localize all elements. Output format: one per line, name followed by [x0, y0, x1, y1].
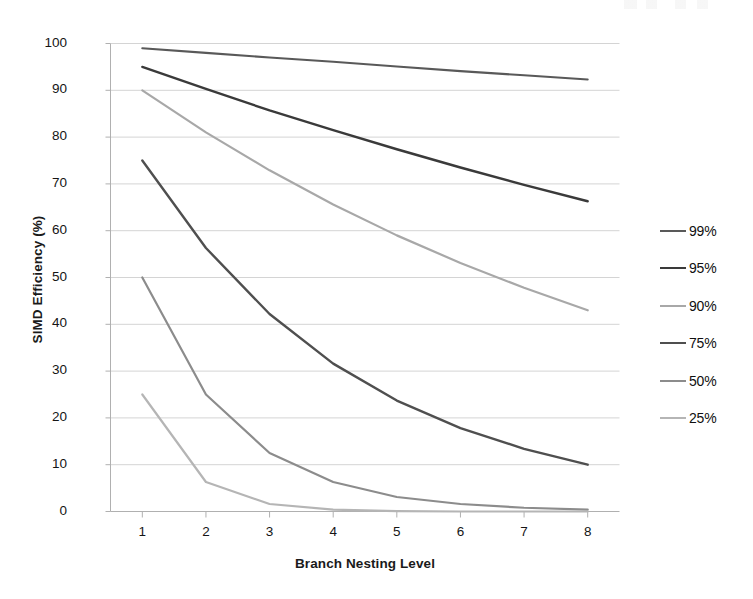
plot-area [0, 0, 753, 599]
gridlines [111, 44, 620, 465]
legend-label: 90% [689, 298, 716, 314]
legend-swatch-icon [660, 230, 686, 232]
legend-swatch-icon [660, 267, 686, 269]
legend-item-95pct[interactable]: 95% [660, 250, 753, 288]
legend-swatch-icon [660, 380, 686, 382]
series-line-25pct [142, 395, 587, 512]
legend-label: 25% [689, 410, 716, 426]
legend-swatch-icon [660, 305, 686, 307]
legend-label: 95% [689, 260, 716, 276]
legend-item-99pct[interactable]: 99% [660, 212, 753, 250]
series-line-99pct [142, 48, 587, 79]
series-line-75pct [142, 161, 587, 465]
legend: 99%95%90%75%50%25% [660, 212, 753, 437]
legend-item-25pct[interactable]: 25% [660, 400, 753, 438]
legend-item-90pct[interactable]: 90% [660, 287, 753, 325]
legend-label: 50% [689, 373, 716, 389]
legend-item-75pct[interactable]: 75% [660, 325, 753, 363]
chart-container: SIMD Efficiency (%) Branch Nesting Level… [0, 0, 753, 599]
legend-swatch-icon [660, 417, 686, 419]
legend-label: 99% [689, 223, 716, 239]
legend-swatch-icon [660, 342, 686, 344]
series-lines [142, 48, 587, 511]
series-line-50pct [142, 278, 587, 510]
legend-label: 75% [689, 335, 716, 351]
legend-item-50pct[interactable]: 50% [660, 362, 753, 400]
